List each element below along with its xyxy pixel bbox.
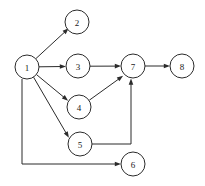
node-2[interactable]: 2	[65, 10, 89, 34]
edge-1-to-2	[36, 27, 70, 59]
edge-5-to-7	[92, 79, 133, 145]
node-5-label: 5	[78, 140, 83, 150]
edge-5-to-7-line	[92, 81, 131, 144]
arrowhead-icon	[115, 64, 121, 69]
arrowhead-icon	[129, 79, 134, 85]
edge-3-to-7	[90, 64, 121, 69]
graph-canvas: 1 2 3 4 5 6	[0, 0, 205, 186]
edge-7-to-8	[145, 64, 170, 69]
edge-4-to-7	[89, 74, 124, 100]
arrowhead-icon	[115, 162, 121, 167]
node-6-label: 6	[131, 160, 136, 170]
node-6[interactable]: 6	[121, 152, 145, 176]
edge-1-to-4-line	[36, 75, 66, 100]
edge-1-to-5	[34, 77, 71, 139]
node-8[interactable]: 8	[170, 54, 194, 78]
directed-graph-figure: 1 2 3 4 5 6	[0, 0, 205, 186]
edge-4-to-7-line	[89, 77, 121, 100]
edge-1-to-3	[39, 64, 66, 69]
arrowhead-icon	[164, 64, 170, 69]
node-1[interactable]: 1	[15, 55, 39, 79]
node-4[interactable]: 4	[67, 95, 91, 119]
node-4-label: 4	[77, 103, 82, 113]
node-layer: 1 2 3 4 5 6	[15, 10, 194, 176]
edge-1-to-2-line	[36, 30, 67, 58]
node-3-label: 3	[76, 62, 81, 72]
node-5[interactable]: 5	[68, 132, 92, 156]
node-7-label: 7	[131, 62, 136, 72]
node-2-label: 2	[75, 18, 80, 28]
node-8-label: 8	[180, 62, 185, 72]
arrowhead-icon	[60, 64, 66, 69]
node-3[interactable]: 3	[66, 54, 90, 78]
node-7[interactable]: 7	[121, 54, 145, 78]
edge-1-to-6	[22, 79, 121, 166]
edge-layer	[22, 27, 170, 167]
node-1-label: 1	[25, 63, 30, 73]
edge-1-to-4	[36, 75, 69, 103]
